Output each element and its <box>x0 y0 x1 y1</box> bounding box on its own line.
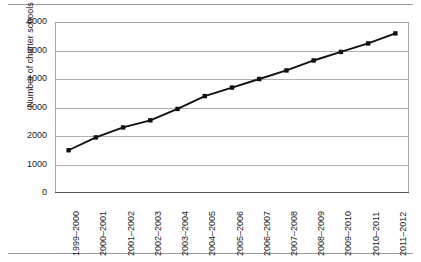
data-point-marker <box>393 31 397 35</box>
x-tick-label: 2000–2001 <box>99 211 108 256</box>
data-point-marker <box>148 118 152 122</box>
data-point-marker <box>203 94 207 98</box>
x-tick-label: 2010–2011 <box>372 212 381 256</box>
y-tick-label: 4000 <box>27 74 47 83</box>
data-point-marker <box>339 50 343 54</box>
x-tick-label: 2005–2006 <box>236 211 245 256</box>
data-point-marker <box>284 68 288 72</box>
y-tick-label: 6000 <box>27 17 47 26</box>
data-point-marker <box>175 107 179 111</box>
y-tick-label: 2000 <box>27 131 47 140</box>
figure-top-rule <box>8 4 413 5</box>
data-series-layer <box>55 22 409 193</box>
data-point-marker <box>230 85 234 89</box>
series-line <box>69 33 396 150</box>
x-tick-label: 1999–2000 <box>72 211 81 256</box>
y-tick-label: 0 <box>42 188 47 197</box>
x-tick-label: 2011–2012 <box>399 212 408 256</box>
data-point-marker <box>311 58 315 62</box>
x-tick-label: 2009–2010 <box>344 211 353 256</box>
chart-figure: Number of charter schools 01000200030004… <box>0 0 421 262</box>
data-point-marker <box>366 41 370 45</box>
data-point-marker <box>121 125 125 129</box>
data-point-marker <box>257 77 261 81</box>
x-axis-tick-labels: 1999–20002000–20012001–20022002–20032003… <box>55 193 409 259</box>
x-tick-label: 2001–2002 <box>127 211 136 256</box>
y-tick-label: 5000 <box>27 46 47 55</box>
x-tick-label: 2004–2005 <box>208 211 217 256</box>
x-tick-label: 2002–2003 <box>154 211 163 256</box>
x-tick-label: 2007–2008 <box>290 211 299 256</box>
x-tick-label: 2003–2004 <box>181 211 190 256</box>
y-tick-label: 1000 <box>27 160 47 169</box>
x-tick-label: 2006–2007 <box>263 211 272 256</box>
y-axis-tick-labels: 0100020003000400050006000 <box>0 0 52 262</box>
x-tick-label: 2008–2009 <box>317 211 326 256</box>
data-point-marker <box>94 135 98 139</box>
data-point-marker <box>66 148 70 152</box>
y-tick-label: 3000 <box>27 103 47 112</box>
